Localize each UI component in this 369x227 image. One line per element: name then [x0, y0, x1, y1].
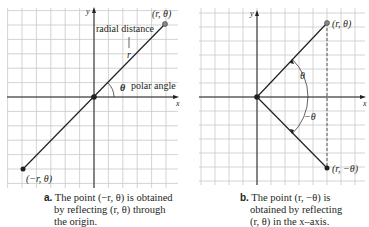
caption-letter-a: a. — [44, 192, 52, 203]
y-label-b: y — [249, 9, 254, 18]
axes-b — [199, 14, 362, 185]
theta-label-a: θ — [120, 82, 126, 93]
reflected-point-label-b: (r, −θ) — [332, 163, 359, 175]
angle-arc-a — [108, 83, 114, 97]
point-label-a: (r, θ) — [152, 8, 172, 20]
origin-b — [254, 94, 260, 100]
y-label-a: y — [85, 7, 90, 16]
x-label-b: x — [362, 99, 367, 108]
caption-b-line-2: obtained by reflecting — [240, 204, 360, 216]
caption-a-line-3: the origin. — [44, 216, 194, 227]
reflected-point-label-a: (−r, θ) — [26, 173, 53, 185]
radial-distance-label: radial distance — [96, 23, 155, 34]
point-r-theta-a — [163, 22, 168, 27]
caption-a-line-2: by reflecting (r, θ) through — [44, 204, 194, 216]
point-r-neg-theta — [325, 166, 330, 171]
caption-b: b. The point (r, −θ) is obtained by refl… — [240, 192, 360, 227]
caption-b-line-1: The point (r, −θ) is — [251, 192, 330, 203]
theta-label-b: θ — [300, 70, 305, 81]
point-label-b: (r, θ) — [332, 18, 352, 30]
r-label: r — [127, 49, 131, 60]
point-neg-r-theta — [21, 167, 26, 172]
point-r-theta-b — [325, 21, 330, 26]
caption-letter-b: b. — [240, 192, 249, 203]
y-arrow-a — [92, 7, 96, 13]
x-label-a: x — [175, 99, 180, 108]
neg-theta-label-b: −θ — [304, 111, 316, 122]
caption-b-line-3: (r, θ) in the x–axis. — [240, 216, 360, 227]
caption-a-line-1: The point (−r, θ) is obtained — [55, 192, 173, 203]
origin-a — [91, 94, 97, 100]
caption-a: a. The point (−r, θ) is obtained by refl… — [44, 192, 194, 227]
polar-angle-label: polar angle — [131, 80, 176, 91]
